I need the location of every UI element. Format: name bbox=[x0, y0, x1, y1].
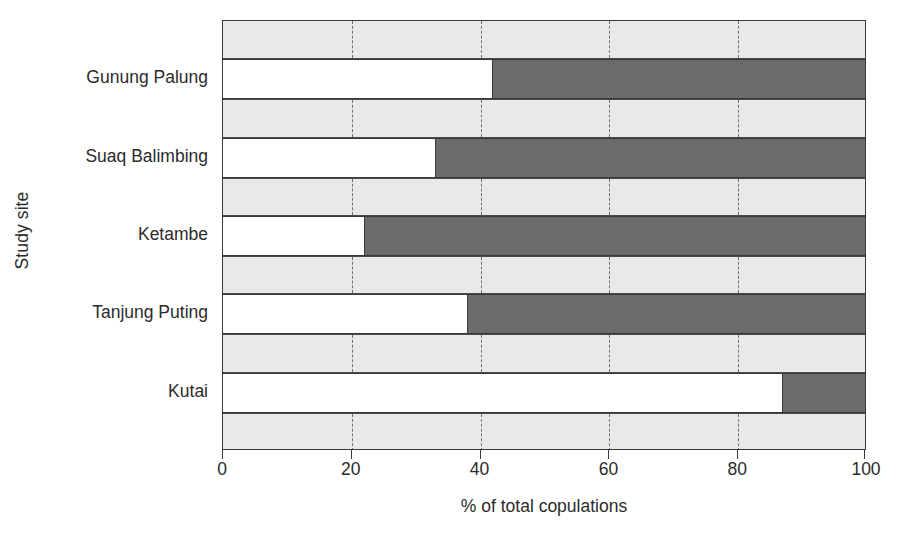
gridline bbox=[481, 335, 482, 371]
gridline bbox=[609, 414, 610, 450]
y-axis-tick-labels: Gunung PalungSuaq BalimbingKetambeTanjun… bbox=[46, 20, 216, 450]
plot-background-band bbox=[223, 99, 865, 137]
x-axis-tick-label: 80 bbox=[727, 459, 746, 481]
bar-segment-light[interactable] bbox=[223, 374, 783, 412]
x-axis-tick bbox=[480, 450, 481, 459]
x-axis-title: % of total copulations bbox=[222, 496, 866, 517]
gridline bbox=[352, 21, 353, 58]
gridline bbox=[352, 179, 353, 215]
bar-row[interactable] bbox=[223, 216, 865, 256]
gridline bbox=[738, 414, 739, 450]
y-axis-tick-label: Ketambe bbox=[138, 226, 208, 244]
bar-segment-dark[interactable] bbox=[468, 295, 865, 333]
x-axis-tick bbox=[864, 450, 865, 459]
x-axis-tick bbox=[351, 450, 352, 459]
gridline bbox=[609, 179, 610, 215]
y-axis-tick-label: Tanjung Puting bbox=[92, 304, 208, 322]
gridline bbox=[738, 257, 739, 293]
plot-background-band bbox=[223, 21, 865, 59]
x-axis-tick bbox=[608, 450, 609, 459]
y-axis-tick-label: Suaq Balimbing bbox=[85, 148, 208, 166]
gridline bbox=[609, 21, 610, 58]
gridline bbox=[481, 257, 482, 293]
bar-chart-figure: Study site Gunung PalungSuaq BalimbingKe… bbox=[0, 0, 916, 535]
y-axis-tick-label: Kutai bbox=[168, 383, 208, 401]
bar-row[interactable] bbox=[223, 138, 865, 178]
x-axis-ticks bbox=[222, 450, 866, 459]
plot-background-band bbox=[223, 334, 865, 372]
bar-row[interactable] bbox=[223, 59, 865, 99]
plot-background-band bbox=[223, 178, 865, 216]
x-axis-tick bbox=[737, 450, 738, 459]
x-axis-tick bbox=[222, 450, 223, 459]
bar-segment-light[interactable] bbox=[223, 60, 493, 98]
plot-background-band bbox=[223, 256, 865, 294]
gridline bbox=[609, 335, 610, 371]
bar-segment-light[interactable] bbox=[223, 139, 436, 177]
y-axis-title: Study site bbox=[0, 0, 46, 460]
gridline bbox=[609, 100, 610, 136]
x-axis-tick-label: 100 bbox=[851, 459, 880, 481]
gridline bbox=[738, 335, 739, 371]
x-axis-tick-label: 20 bbox=[341, 459, 360, 481]
gridline bbox=[352, 257, 353, 293]
bar-segment-dark[interactable] bbox=[436, 139, 865, 177]
plot-background-band bbox=[223, 413, 865, 450]
y-axis-title-text: Study site bbox=[13, 191, 34, 269]
gridline bbox=[738, 100, 739, 136]
gridline bbox=[738, 21, 739, 58]
bar-row[interactable] bbox=[223, 294, 865, 334]
bar-segment-dark[interactable] bbox=[783, 374, 865, 412]
gridline bbox=[481, 100, 482, 136]
gridline bbox=[481, 414, 482, 450]
gridline bbox=[738, 179, 739, 215]
x-axis-tick-label: 40 bbox=[470, 459, 489, 481]
bar-segment-dark[interactable] bbox=[493, 60, 865, 98]
x-axis-tick-label: 0 bbox=[217, 459, 227, 481]
gridline bbox=[352, 335, 353, 371]
x-axis-tick-labels: 020406080100 bbox=[222, 459, 866, 485]
plot-area bbox=[222, 20, 866, 450]
bar-segment-light[interactable] bbox=[223, 217, 365, 255]
y-axis-tick-label: Gunung Palung bbox=[86, 69, 208, 87]
bar-row[interactable] bbox=[223, 373, 865, 413]
gridline bbox=[352, 414, 353, 450]
gridline bbox=[352, 100, 353, 136]
x-axis-tick-label: 60 bbox=[599, 459, 618, 481]
bar-segment-light[interactable] bbox=[223, 295, 468, 333]
gridline bbox=[481, 179, 482, 215]
gridline bbox=[481, 21, 482, 58]
bar-segment-dark[interactable] bbox=[365, 217, 865, 255]
gridline bbox=[609, 257, 610, 293]
